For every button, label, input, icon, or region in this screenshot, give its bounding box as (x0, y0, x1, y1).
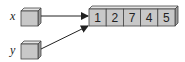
svg-text:2: 2 (111, 11, 118, 25)
svg-text:5: 5 (163, 11, 170, 25)
svg-text:4: 4 (146, 11, 153, 25)
svg-text:7: 7 (129, 11, 136, 25)
array-cell-0: 1 (89, 9, 106, 26)
svg-text:1: 1 (94, 11, 101, 25)
array-cell-1: 2 (106, 9, 123, 26)
array-cell-4: 5 (158, 9, 175, 26)
variable-y-box (21, 41, 41, 59)
variable-x-box (21, 8, 41, 26)
array-cell-3: 4 (141, 9, 158, 26)
variable-x-label: x (9, 9, 16, 23)
variable-x: x (9, 8, 41, 26)
reference-diagram: x y 1 2 7 (0, 0, 185, 62)
array: 1 2 7 4 5 (89, 6, 178, 26)
variable-y: y (9, 41, 41, 59)
array-cell-2: 7 (123, 9, 140, 26)
arrow-y-to-array (41, 26, 88, 49)
variable-y-label: y (9, 43, 16, 57)
